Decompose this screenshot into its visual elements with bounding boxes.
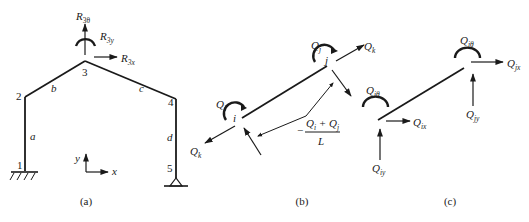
force-j-y-label: Qjy xyxy=(466,108,480,123)
reaction-x-label: R3x xyxy=(120,52,135,67)
node-label-3: 3 xyxy=(82,66,88,78)
structural-diagram: 2 3 4 1 5 a b c d R3θ R3y R3x y x (a) i … xyxy=(0,0,529,222)
axial-force-j-label: Qk xyxy=(364,40,376,55)
x-axis-label: x xyxy=(111,165,117,177)
moment-j-label: Qj xyxy=(311,39,321,54)
shear-denominator: L xyxy=(317,135,324,147)
axial-force-j-arrow xyxy=(336,45,364,61)
y-axis-label: y xyxy=(74,152,80,164)
element-ij-global xyxy=(378,68,464,120)
node-label-4: 4 xyxy=(168,96,174,108)
reaction-theta-label: R3θ xyxy=(75,10,90,25)
node-label-j: j xyxy=(323,54,328,66)
node-label-2: 2 xyxy=(16,90,22,102)
panel-a-frame: 2 3 4 1 5 a b c d R3θ R3y R3x y x (a) xyxy=(10,10,188,208)
member-label-a: a xyxy=(30,130,36,142)
moment-j-theta-label: Qjθ xyxy=(460,34,474,49)
caption-b: (b) xyxy=(296,195,309,208)
shear-leader-j xyxy=(306,83,333,116)
force-j-x-label: Qjx xyxy=(507,57,521,72)
member-label-c: c xyxy=(139,82,144,94)
member-label-d: d xyxy=(167,131,173,143)
node-label-i: i xyxy=(233,112,236,124)
node-label-1: 1 xyxy=(17,159,23,171)
shear-i-arrow xyxy=(244,128,261,155)
panel-b-element: i j Qi Qj Qk Qk − Qi + Qj L (b) xyxy=(190,39,376,208)
member-label-b: b xyxy=(51,82,57,94)
shear-numerator: Qi + Qj xyxy=(306,117,339,132)
fixed-support-icon xyxy=(10,172,38,180)
shear-sign: − xyxy=(297,124,303,136)
reaction-y-label: R3y xyxy=(99,30,114,45)
node-label-5: 5 xyxy=(167,162,173,174)
pin-support-icon xyxy=(164,178,188,186)
moment-j-arrowhead xyxy=(331,47,338,54)
axial-force-i-label: Qk xyxy=(190,145,202,160)
force-i-y-label: Qiy xyxy=(372,162,386,177)
moment-i-arrowhead xyxy=(241,104,247,111)
caption-c: (c) xyxy=(444,195,457,208)
moment-i-label: Qi xyxy=(216,98,226,113)
caption-a: (a) xyxy=(80,195,93,208)
force-i-x-label: Qix xyxy=(413,116,427,131)
moment-i-theta-label: Qiθ xyxy=(366,84,380,99)
shear-j-arrow xyxy=(332,70,351,96)
moment-j-theta-icon xyxy=(455,48,480,58)
shear-formula-label: − Qi + Qj L xyxy=(297,117,340,147)
panel-c-element: Qiθ Qix Qiy Qjθ Qjx Qjy (c) xyxy=(363,34,521,208)
axial-force-i-arrow xyxy=(205,126,235,143)
element-ij xyxy=(242,66,327,118)
